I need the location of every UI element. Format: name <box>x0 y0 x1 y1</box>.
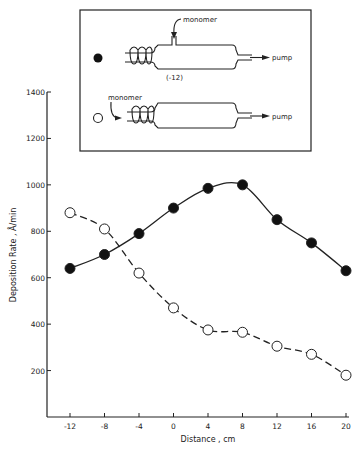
x-ticks: -12-8-4048121620 <box>64 413 351 431</box>
open-data-point <box>169 303 179 313</box>
y-tick-label: 1200 <box>26 134 45 143</box>
x-tick-label: 8 <box>240 422 245 431</box>
open-circle-marker-icon <box>94 114 103 123</box>
filled-data-point <box>100 250 110 260</box>
bottom-monomer-label: monomer <box>108 94 142 102</box>
bottom-reactor <box>94 102 271 128</box>
bottom-pump-label: pump <box>272 113 293 121</box>
filled-data-point <box>203 183 213 193</box>
filled-circle-marker-icon <box>94 54 103 63</box>
x-tick-label: 4 <box>206 422 211 431</box>
filled-data-point <box>238 180 248 190</box>
x-tick-label: 20 <box>341 422 351 431</box>
open-data-point <box>100 224 110 234</box>
open-data-point <box>341 370 351 380</box>
filled-series-curve <box>70 183 346 271</box>
x-axis-label: Distance , cm <box>181 435 236 444</box>
arrow-right-icon <box>115 116 122 121</box>
open-series-curve <box>70 213 346 376</box>
filled-data-point <box>65 263 75 273</box>
y-tick-label: 400 <box>31 320 46 329</box>
filled-data-point <box>307 238 317 248</box>
open-data-point <box>65 208 75 218</box>
y-axis-label: Deposition Rate , Å/min <box>7 208 18 303</box>
open-data-point <box>134 268 144 278</box>
top-pump-label: pump <box>272 54 293 62</box>
arrow-right-icon <box>262 114 270 119</box>
filled-data-point <box>169 203 179 213</box>
open-data-point <box>272 341 282 351</box>
open-data-point <box>307 349 317 359</box>
y-tick-label: 600 <box>31 274 46 283</box>
y-tick-label: 1000 <box>26 181 45 190</box>
top-position-label: (-12) <box>166 74 183 82</box>
inset-diagram: monomer (-12) pump monomer pump <box>80 10 311 151</box>
figure: monomer (-12) pump monomer pump 20040060… <box>0 0 364 451</box>
y-tick-label: 800 <box>31 227 46 236</box>
y-tick-label: 200 <box>31 367 46 376</box>
x-tick-label: 12 <box>272 422 282 431</box>
x-tick-label: -12 <box>64 422 76 431</box>
x-tick-label: 16 <box>307 422 317 431</box>
filled-data-point <box>341 266 351 276</box>
x-tick-label: -4 <box>135 422 143 431</box>
y-tick-label: 1400 <box>26 88 45 97</box>
arrow-right-icon <box>262 55 270 60</box>
filled-data-point <box>134 229 144 239</box>
top-reactor <box>94 19 271 69</box>
x-tick-label: 0 <box>171 422 176 431</box>
open-data-point <box>238 327 248 337</box>
open-data-point <box>203 325 213 335</box>
inset-frame <box>80 10 311 151</box>
filled-data-point <box>272 215 282 225</box>
axes <box>47 92 349 417</box>
top-monomer-label: monomer <box>183 16 217 24</box>
plot-area <box>65 180 351 380</box>
x-tick-label: -8 <box>101 422 109 431</box>
